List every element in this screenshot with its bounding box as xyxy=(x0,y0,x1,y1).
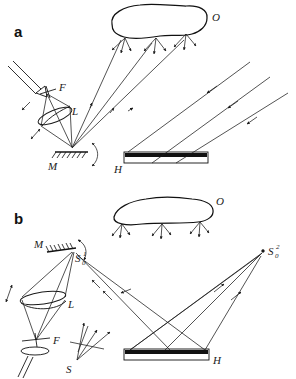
real-source-S-b: S xyxy=(66,323,110,375)
lens-L-a xyxy=(36,104,74,129)
beam-direction-arrows-a xyxy=(22,102,40,139)
hologram-label-a: H xyxy=(113,163,123,175)
source2-point-b xyxy=(262,250,265,253)
laser-beam-input-b xyxy=(18,356,33,378)
mirror-rotation-arrow-a xyxy=(92,143,98,166)
object-label-b: O xyxy=(216,195,224,207)
panel-a-letter: a xyxy=(14,23,23,40)
optical-diagram: a O xyxy=(0,0,296,379)
hologram-plate-b xyxy=(124,349,209,360)
laser-beam-input-a xyxy=(8,61,41,94)
beam-cone-a xyxy=(41,94,72,147)
panel-b-letter: b xyxy=(14,210,23,227)
source2-sup-b: 2 xyxy=(276,243,280,251)
source-label-b: S xyxy=(66,363,72,375)
lens-label-b: L xyxy=(67,298,74,310)
collimator-lens-b xyxy=(21,347,49,355)
reference-beams-a xyxy=(128,62,288,163)
beam-prism-a xyxy=(36,86,47,97)
figure-root: a O xyxy=(0,0,296,379)
virtual-source-S02-b: S 0 2 xyxy=(262,243,280,260)
object-beams-a xyxy=(72,40,184,148)
source1-sup-b: 1 xyxy=(83,250,87,258)
lens-label-a: L xyxy=(71,105,78,117)
filter-label-b: F xyxy=(52,334,60,346)
object-outline-a xyxy=(112,4,207,38)
panel-a: a O xyxy=(8,4,288,175)
mirror-label-a: M xyxy=(47,160,58,172)
mirror-label-b: M xyxy=(33,238,44,250)
source2-sub-b: 0 xyxy=(275,252,279,260)
mirror-M-a xyxy=(52,152,88,158)
lens-L-b xyxy=(19,289,66,309)
beam-cone-b xyxy=(22,252,74,340)
beam-direction-arrow-b xyxy=(6,285,12,302)
source-S-rays-b xyxy=(70,323,110,360)
object-outline-b xyxy=(114,197,213,225)
hologram-label-b: H xyxy=(212,354,222,366)
filter-label-a: F xyxy=(58,81,66,93)
mirror-M-b xyxy=(46,243,76,252)
source2-label-b: S xyxy=(268,245,274,257)
panel-b: b O xyxy=(6,195,280,378)
hologram-plate-a xyxy=(124,152,208,163)
object-beam-arrowheads-a xyxy=(90,103,133,113)
reconstruction-beams-b xyxy=(76,253,262,350)
object-label-a: O xyxy=(212,11,220,23)
